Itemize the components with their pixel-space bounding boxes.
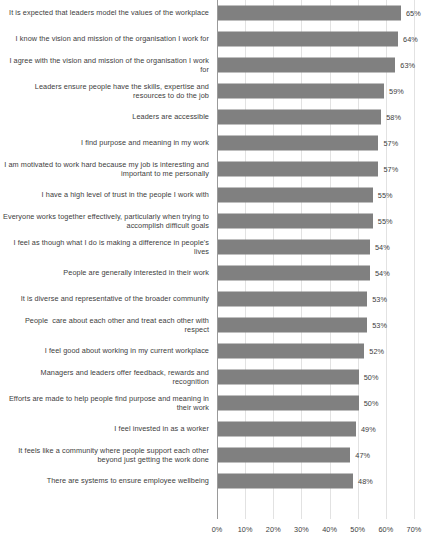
bar-row: Leaders ensure people have the skills, e…: [0, 78, 428, 104]
bar-row: I have a high level of trust in the peop…: [0, 182, 428, 208]
bar-with-value: 48%: [218, 474, 373, 489]
bar-row: It is diverse and representative of the …: [0, 286, 428, 312]
bar-row: Efforts are made to help people find pur…: [0, 390, 428, 416]
category-label: It feels like a community where people s…: [2, 446, 209, 465]
category-label: There are systems to ensure employee wel…: [2, 476, 209, 485]
bar-row: I feel invested in as a worker49%: [0, 416, 428, 442]
bar: [218, 32, 398, 47]
x-axis: 0%10%20%30%40%50%60%70%: [217, 519, 414, 539]
bar: [218, 370, 359, 385]
bar: [218, 266, 370, 281]
bar-value-label: 53%: [372, 295, 387, 304]
bar: [218, 292, 367, 307]
x-tick-label: 70%: [407, 525, 422, 534]
category-label: It is diverse and representative of the …: [2, 294, 209, 303]
bar-with-value: 65%: [218, 6, 421, 21]
x-tick-label: 50%: [350, 525, 365, 534]
x-tick-label: 10%: [238, 525, 253, 534]
bar-with-value: 63%: [218, 58, 415, 73]
category-label: Managers and leaders offer feedback, rew…: [2, 368, 209, 387]
bar-row: Managers and leaders offer feedback, rew…: [0, 364, 428, 390]
bar-value-label: 55%: [378, 217, 393, 226]
bar-with-value: 59%: [218, 84, 404, 99]
bar: [218, 136, 378, 151]
bar-value-label: 49%: [361, 425, 376, 434]
bar-row: People care about each other and treat e…: [0, 312, 428, 338]
category-label: I feel invested in as a worker: [2, 424, 209, 433]
category-label: I agree with the vision and mission of t…: [2, 56, 209, 75]
bar-row: I feel as though what I do is making a d…: [0, 234, 428, 260]
bar-with-value: 57%: [218, 162, 398, 177]
category-label: I am motivated to work hard because my j…: [2, 160, 209, 179]
bar: [218, 58, 395, 73]
bar-with-value: 55%: [218, 188, 393, 203]
bar-with-value: 52%: [218, 344, 384, 359]
bar-with-value: 50%: [218, 370, 379, 385]
x-tick-label: 60%: [378, 525, 393, 534]
bar-value-label: 48%: [358, 477, 373, 486]
bar: [218, 110, 381, 125]
category-label: I know the vision and mission of the org…: [2, 34, 209, 43]
bar: [218, 396, 359, 411]
bar-value-label: 63%: [400, 61, 415, 70]
bar-row: I am motivated to work hard because my j…: [0, 156, 428, 182]
bar-value-label: 54%: [375, 269, 390, 278]
bar-value-label: 59%: [389, 87, 404, 96]
bar-value-label: 54%: [375, 243, 390, 252]
category-label: Everyone works together effectively, par…: [2, 212, 209, 231]
bar-row: I feel good about working in my current …: [0, 338, 428, 364]
bar-with-value: 53%: [218, 292, 387, 307]
bar: [218, 162, 378, 177]
category-label: Efforts are made to help people find pur…: [2, 394, 209, 413]
bar-value-label: 58%: [386, 113, 401, 122]
bar-row: People are generally interested in their…: [0, 260, 428, 286]
bar-row: There are systems to ensure employee wel…: [0, 468, 428, 494]
category-label: I feel as though what I do is making a d…: [2, 238, 209, 257]
bar-row: I know the vision and mission of the org…: [0, 26, 428, 52]
bar-value-label: 50%: [364, 373, 379, 382]
category-label: I have a high level of trust in the peop…: [2, 190, 209, 199]
bar: [218, 344, 364, 359]
bar-value-label: 55%: [378, 191, 393, 200]
bar-with-value: 55%: [218, 214, 393, 229]
category-label: Leaders ensure people have the skills, e…: [2, 82, 209, 101]
x-tick-label: 20%: [266, 525, 281, 534]
bar-with-value: 49%: [218, 422, 376, 437]
category-label: Leaders are accessible: [2, 112, 209, 121]
category-label: It is expected that leaders model the va…: [2, 8, 209, 17]
bar-row: Everyone works together effectively, par…: [0, 208, 428, 234]
category-label: People are generally interested in their…: [2, 268, 209, 277]
bar-with-value: 53%: [218, 318, 387, 333]
bar: [218, 474, 353, 489]
bar-row: It is expected that leaders model the va…: [0, 0, 428, 26]
bar-with-value: 54%: [218, 266, 390, 281]
bar: [218, 318, 367, 333]
bar-value-label: 47%: [355, 451, 370, 460]
bar-with-value: 50%: [218, 396, 379, 411]
bar-with-value: 64%: [218, 32, 418, 47]
bar-with-value: 54%: [218, 240, 390, 255]
bar-value-label: 50%: [364, 399, 379, 408]
bar: [218, 422, 356, 437]
bar-with-value: 57%: [218, 136, 398, 151]
horizontal-bar-chart: It is expected that leaders model the va…: [0, 0, 428, 554]
bar-value-label: 65%: [406, 9, 421, 18]
bar: [218, 84, 384, 99]
bar: [218, 448, 350, 463]
bar-value-label: 57%: [383, 139, 398, 148]
bar-with-value: 58%: [218, 110, 401, 125]
bar: [218, 214, 373, 229]
x-tick-label: 0%: [212, 525, 223, 534]
x-tick-label: 30%: [294, 525, 309, 534]
bar-value-label: 53%: [372, 321, 387, 330]
bar-row: It feels like a community where people s…: [0, 442, 428, 468]
bar-row: I agree with the vision and mission of t…: [0, 52, 428, 78]
bar-with-value: 47%: [218, 448, 370, 463]
category-label: People care about each other and treat e…: [2, 316, 209, 335]
bar-row: I find purpose and meaning in my work57%: [0, 130, 428, 156]
category-label: I feel good about working in my current …: [2, 346, 209, 355]
bar: [218, 6, 401, 21]
x-tick-label: 40%: [322, 525, 337, 534]
bar: [218, 240, 370, 255]
bar-rows: It is expected that leaders model the va…: [0, 0, 428, 519]
